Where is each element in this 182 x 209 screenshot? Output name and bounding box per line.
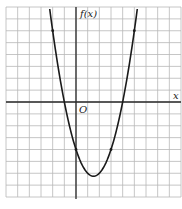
y-axis-label: f(x) xyxy=(79,8,97,19)
x-axis-label: x xyxy=(173,90,179,101)
axes xyxy=(6,7,181,199)
function-graph: f(x) x O xyxy=(0,0,182,209)
parabola-curve xyxy=(50,9,138,176)
point-marker xyxy=(51,29,54,32)
point-marker xyxy=(133,29,136,32)
origin-label: O xyxy=(79,104,87,115)
point-marker xyxy=(75,148,78,151)
point-marker xyxy=(110,148,113,151)
